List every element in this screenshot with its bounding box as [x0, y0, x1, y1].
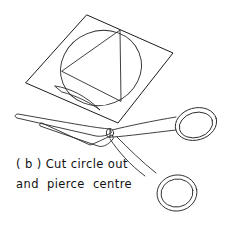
scissors-lower-ring-inner: [159, 176, 195, 209]
caption-line-2: and pierce centre: [16, 177, 132, 191]
line-drawing: ( b ) Cut circle out and pierce centre: [0, 0, 231, 229]
scissors-blade-lower: [40, 123, 113, 146]
scissors-handle-upper-shank: [112, 117, 176, 137]
figure-container: ( b ) Cut circle out and pierce centre: [0, 0, 231, 229]
paper-square-group: [26, 15, 173, 123]
paper-square: [26, 15, 173, 123]
scissors-upper-ring-outer: [171, 103, 220, 145]
caption-line-1: ( b ) Cut circle out: [16, 157, 128, 171]
